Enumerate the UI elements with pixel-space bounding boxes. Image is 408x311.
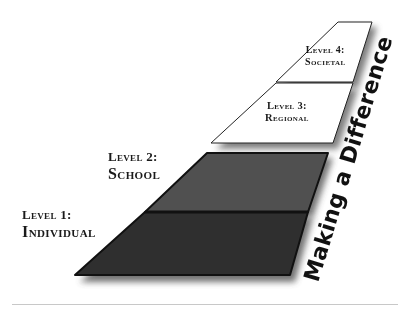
level-2-school-block xyxy=(145,153,328,212)
level-3-name: Regional xyxy=(265,112,309,124)
level-3-label: Level 3: Regional xyxy=(265,100,309,124)
level-1-name: Individual xyxy=(22,223,96,241)
level-4-name: Societal xyxy=(305,56,346,68)
making-a-difference-diagram: Making a Difference xyxy=(0,0,408,311)
level-2-label: Level 2: School xyxy=(108,150,160,183)
level-4-number: Level 4: xyxy=(305,44,346,56)
level-2-number: Level 2: xyxy=(108,150,160,165)
horizontal-rule xyxy=(12,304,398,305)
level-1-label: Level 1: Individual xyxy=(22,208,96,241)
level-4-label: Level 4: Societal xyxy=(305,44,346,67)
level-1-individual-block xyxy=(75,212,308,275)
level-2-name: School xyxy=(108,165,160,183)
level-1-number: Level 1: xyxy=(22,208,96,223)
level-3-number: Level 3: xyxy=(265,100,309,112)
